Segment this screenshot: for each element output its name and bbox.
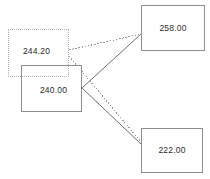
node-label: 222.00 xyxy=(158,146,185,155)
diagram-canvas: 244.20 240.00 258.00 222.00 xyxy=(0,0,210,179)
node-244-20[interactable]: 244.20 xyxy=(8,29,69,77)
node-label: 240.00 xyxy=(40,86,67,95)
node-label: 258.00 xyxy=(159,24,186,33)
edge-240-to-258 xyxy=(82,34,141,88)
edge-244-to-258 xyxy=(69,34,141,50)
node-label: 244.20 xyxy=(23,47,50,56)
node-222-00[interactable]: 222.00 xyxy=(141,128,203,173)
node-258-00[interactable]: 258.00 xyxy=(141,5,205,51)
edge-240-to-222 xyxy=(82,88,141,144)
